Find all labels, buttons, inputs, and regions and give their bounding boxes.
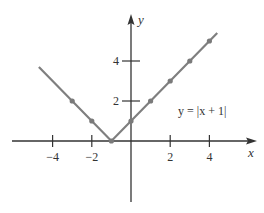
data-point-marker xyxy=(148,98,153,103)
data-point-marker xyxy=(168,78,173,83)
equation-annotation: y = |x + 1| xyxy=(178,104,226,118)
x-tick-label: 4 xyxy=(206,150,212,164)
function-graph: −4−22424 x y y = |x + 1| xyxy=(0,0,264,213)
x-tick-label: −4 xyxy=(46,150,59,164)
data-point-marker xyxy=(187,58,192,63)
function-line xyxy=(39,33,217,141)
x-tick-label: 2 xyxy=(167,150,173,164)
y-tick-label: 4 xyxy=(113,54,119,68)
series-abs-function xyxy=(39,33,217,144)
data-point-marker xyxy=(70,98,75,103)
data-point-marker xyxy=(109,138,114,143)
y-axis-label: y xyxy=(136,12,144,27)
labels: x y y = |x + 1| xyxy=(136,12,254,160)
x-tick-label: −2 xyxy=(85,150,98,164)
data-point-marker xyxy=(89,118,94,123)
data-point-marker xyxy=(207,38,212,43)
y-tick-label: 2 xyxy=(113,94,119,108)
data-point-marker xyxy=(128,118,133,123)
x-axis-label: x xyxy=(247,145,254,160)
